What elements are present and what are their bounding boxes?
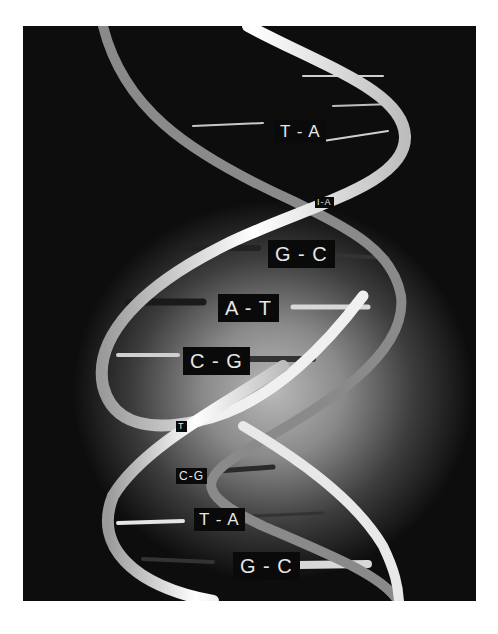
base-pair-label: I-A xyxy=(315,197,334,208)
base-pair-label: C-G xyxy=(176,468,207,484)
dna-helix-image: T - A I-A G - C A - T C - G T C-G T - A … xyxy=(23,26,476,601)
base-pair-label: T - A xyxy=(194,508,245,531)
base-pair-label: T - A xyxy=(275,120,326,143)
base-pair-label: G - C xyxy=(233,552,300,580)
base-pair-label: A - T xyxy=(218,294,279,322)
base-pair-label: C - G xyxy=(183,347,250,375)
base-pair-label: T xyxy=(176,421,187,432)
base-pair-label: G - C xyxy=(268,240,335,268)
